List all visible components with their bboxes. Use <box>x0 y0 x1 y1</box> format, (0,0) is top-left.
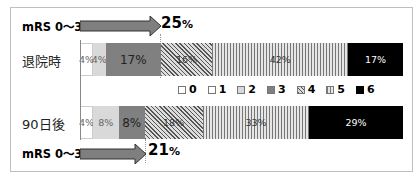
legend-item-6: 6 <box>356 83 375 96</box>
segment-3: 16% <box>161 43 213 76</box>
legend-swatch <box>297 86 305 94</box>
legend-item-5: 5 <box>326 83 345 96</box>
segment-6: 29% <box>309 106 403 139</box>
mrs-percent-bottom: 21% <box>148 141 180 159</box>
bar-discharge: 4% 4% 17% 16% 42% 17% <box>80 43 403 76</box>
segment-3: 18% <box>145 106 203 139</box>
legend-swatch <box>267 86 275 94</box>
segment-4: 33% <box>203 106 310 139</box>
segment-6: 17% <box>348 43 403 76</box>
legend-item-3: 3 <box>267 83 286 96</box>
legend-item-1: 1 <box>208 83 227 96</box>
legend: 0 1 2 3 4 5 6 <box>178 83 375 96</box>
arrow-right-icon <box>80 144 147 164</box>
arrow-right-icon <box>80 16 162 36</box>
mrs-label-top: mRS 0〜3 <box>22 18 82 34</box>
legend-item-4: 4 <box>297 83 316 96</box>
row-label-discharge: 退院時 <box>22 51 80 70</box>
legend-swatch <box>326 86 334 94</box>
mrs-label-bottom: mRS 0〜3 <box>22 145 82 161</box>
segment-2: 8% <box>119 106 145 139</box>
legend-item-2: 2 <box>237 83 256 96</box>
legend-item-0: 0 <box>178 83 197 96</box>
segment-0: 4% <box>80 106 93 139</box>
category-axis <box>80 40 81 140</box>
segment-2: 17% <box>106 43 161 76</box>
legend-swatch <box>208 86 216 94</box>
legend-swatch <box>356 86 364 94</box>
mrs-percent-top: 25% <box>161 14 193 32</box>
segment-4: 42% <box>212 43 348 76</box>
segment-1: 4% <box>93 43 106 76</box>
legend-swatch <box>237 86 245 94</box>
bar-90days: 4% 8% 8% 18% 33% 29% <box>80 106 403 139</box>
segment-1: 8% <box>93 106 119 139</box>
row-label-90days: 90日後 <box>22 114 80 133</box>
legend-swatch <box>178 86 186 94</box>
